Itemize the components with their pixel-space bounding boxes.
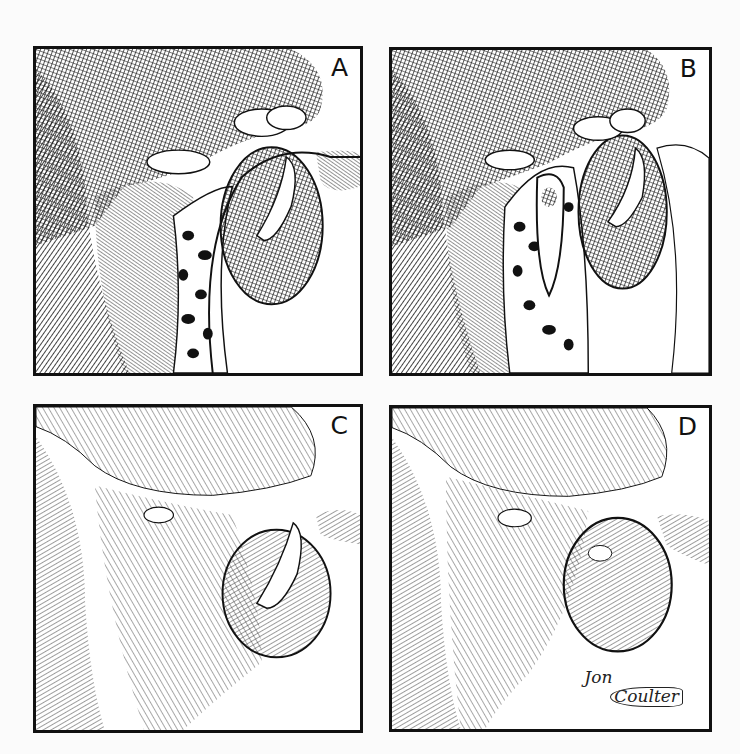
artist-signature: Jon Coulter [584,669,683,707]
panel-a: A [33,46,363,376]
panel-label-c: C [331,413,348,438]
signature-last-name: Coulter [610,687,683,707]
panel-d: D Jon Coulter [389,405,712,732]
panel-label-a: A [331,55,348,80]
signature-first-name: Jon [584,669,683,687]
panel-b: B [389,47,712,376]
panel-c: C [33,404,363,733]
illustration-c [36,407,360,730]
illustration-b [392,50,709,373]
illustration-a [36,49,360,373]
panel-label-d: D [678,414,697,439]
panel-label-b: B [680,56,697,81]
